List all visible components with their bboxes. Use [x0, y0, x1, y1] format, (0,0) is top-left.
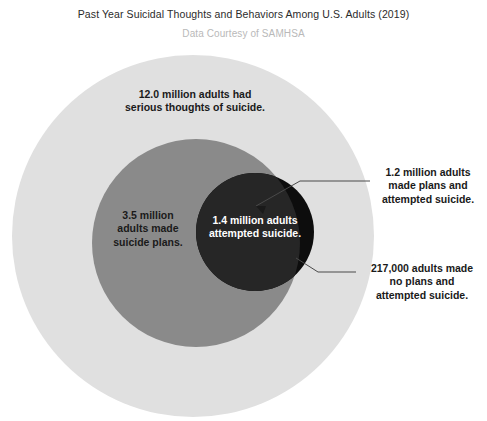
label-made-plans: 3.5 million adults made suicide plans. [98, 209, 198, 249]
label-attempted-suicide: 1.4 million adults attempted suicide. [196, 214, 314, 241]
venn-diagram-figure: Past Year Suicidal Thoughts and Behavior… [0, 0, 487, 421]
label-noplans-and-attempted: 217,000 adults made no plans and attempt… [358, 262, 486, 302]
venn-circles-graphic [0, 0, 487, 421]
label-plans-and-attempted: 1.2 million adults made plans and attemp… [372, 166, 484, 206]
label-serious-thoughts: 12.0 million adults had serious thoughts… [60, 88, 330, 115]
